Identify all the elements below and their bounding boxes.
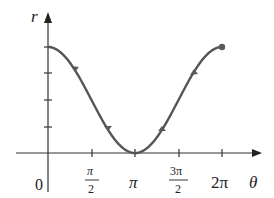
tick-label-two-pi: 2π [211,173,229,192]
tick-label-three-pi-half-num: 3π [170,164,182,178]
direction-arrow-icon [190,69,198,75]
direction-arrow-icon [104,126,112,131]
tick-label-three-pi-half-den: 2 [175,182,181,196]
polar-graph: r θ 0 π 2 π 3π 2 2π [0,0,274,198]
y-axis-arrow-icon [44,12,52,23]
tick-label-pi-half-den: 2 [88,182,94,196]
y-axis-label: r [31,7,38,26]
x-axis-arrow-icon [252,149,262,157]
cardioid-curve [48,47,222,153]
endpoint-marker [219,44,225,50]
origin-label: 0 [35,176,43,193]
direction-arrow-icon [71,66,79,72]
tick-label-pi: π [129,173,138,192]
x-axis-label: θ [249,173,257,192]
tick-label-pi-half-num: π [87,164,94,178]
